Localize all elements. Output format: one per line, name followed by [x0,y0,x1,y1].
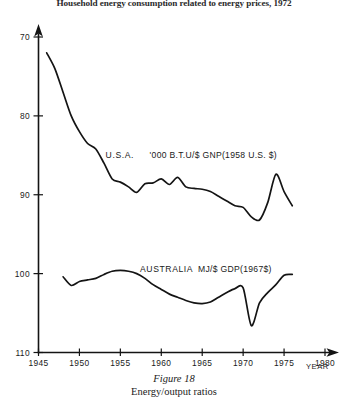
x-axis: 19451950195519601965197019751980 YEAR [28,348,339,371]
series-annotations: U.S.A.'000 B.T.U/$ GNP(1958 U.S. $)AUSTR… [106,150,277,274]
series-name-label: U.S.A. [106,150,134,160]
x-tick-group: 19451950195519601965197019751980 [28,349,335,369]
series-curves [47,53,293,326]
series-name-label: AUSTRALIA [140,264,193,274]
x-tick-label: 1965 [192,358,212,368]
x-tick-label: 1955 [110,358,130,368]
series-line-australia [63,270,292,325]
series-units-label: '000 B.T.U/$ GNP(1958 U.S. $) [150,150,277,160]
series-line-u-s-a [47,53,293,221]
y-tick-label: 100 [15,269,30,279]
figure-caption: Figure 18 Energy/output ratios [0,372,348,398]
figure-number: Figure 18 [0,372,348,385]
series-units-label: MJ/$ GDP(1967$) [198,264,272,274]
chart-plot-area: 110100908070 194519501955196019651970197… [0,0,348,372]
x-tick-label: 1960 [151,358,171,368]
y-tick-label: 110 [15,348,30,358]
y-tick-label: 90 [20,190,30,200]
y-tick-label: 80 [20,111,30,121]
figure-caption-text: Energy/output ratios [0,385,348,398]
x-tick-label: 1950 [69,358,89,368]
x-axis-title: YEAR [306,362,329,371]
figure-container: Household energy consumption related to … [0,0,348,404]
y-tick-label: 70 [20,32,30,42]
x-tick-label: 1945 [28,358,48,368]
x-tick-label: 1975 [274,358,294,368]
x-tick-label: 1970 [233,358,253,368]
y-axis: 110100908070 [15,24,43,358]
